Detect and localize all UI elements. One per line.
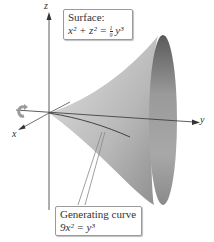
fraction-denominator: 9: [110, 32, 113, 38]
surface-callout-title: Surface:: [68, 11, 128, 24]
surface-callout: Surface: x² + z² = 1 9 y³: [63, 9, 133, 40]
surface-equation: x² + z² = 1 9 y³: [68, 24, 128, 38]
surface-equation-fraction: 1 9: [110, 25, 113, 38]
x-axis-label: x: [12, 128, 16, 139]
z-axis: [47, 12, 52, 210]
curve-callout: Generating curve 9x² = y³: [55, 206, 142, 236]
fraction-numerator: 1: [110, 25, 113, 32]
curve-callout-title: Generating curve: [60, 208, 137, 221]
curve-equation: 9x² = y³: [60, 221, 137, 234]
surface-equation-rhs: y³: [115, 24, 123, 36]
surface-equation-lhs: x² + z² =: [68, 24, 110, 36]
y-axis-label: y: [200, 114, 204, 125]
z-axis-label: z: [44, 0, 48, 11]
surface-of-revolution-figure: z y x Surface: x² + z² = 1 9 y³ Generati…: [0, 0, 214, 242]
surface-body: [49, 36, 158, 205]
